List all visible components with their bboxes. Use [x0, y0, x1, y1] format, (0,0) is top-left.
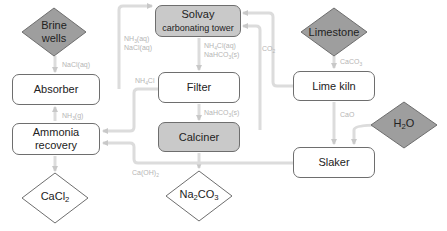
label-nh4cl: NH4Cl	[135, 76, 154, 88]
node-slaker: Slaker	[293, 147, 375, 178]
node-absorber: Absorber	[12, 74, 100, 105]
label-nh3-g: NH3(g)	[62, 111, 83, 123]
label-nahco3-s-2: NaHCO3(s)	[204, 108, 239, 120]
node-brine-wells: Brinewells	[21, 7, 87, 57]
label-co2: CO2	[262, 44, 275, 56]
node-ammonia-recovery: Ammoniarecovery	[12, 123, 100, 155]
node-lime-kiln: Lime kiln	[293, 71, 375, 101]
label-caco3: CaCO3	[340, 57, 362, 69]
label-caoh2: Ca(OH)2	[132, 168, 159, 180]
node-cacl2: CaCl2	[21, 172, 89, 224]
label-nacl-aq-2: NaCl(aq)	[124, 43, 152, 52]
node-calciner: Calciner	[158, 122, 240, 152]
node-solvay-tower: Solvaycarbonating tower	[155, 5, 241, 37]
label-nacl-aq: NaCl(aq)	[62, 60, 90, 69]
node-filter: Filter	[158, 72, 240, 103]
label-nahco3-s-1: NaHCO3(s)	[204, 50, 239, 62]
node-h2o: H2O	[370, 101, 438, 149]
label-cao: CaO	[340, 110, 354, 119]
node-na2co3: Na2CO3	[165, 170, 233, 222]
node-limestone: Limestone	[300, 7, 368, 57]
